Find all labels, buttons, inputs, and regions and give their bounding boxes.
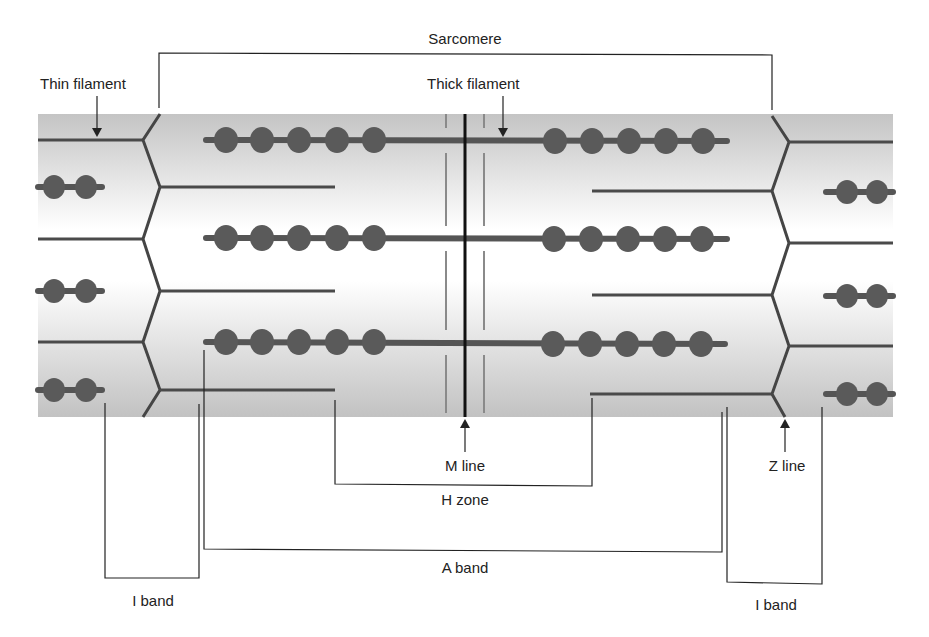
m-line-label: M line (445, 457, 485, 474)
h-zone-label: H zone (441, 491, 489, 508)
arrow-up-icon (780, 419, 790, 428)
a-band-label: A band (442, 559, 489, 576)
thick-filament-label: Thick filament (427, 75, 520, 92)
z-line-label: Z line (769, 457, 806, 474)
i-band-right-label: I band (755, 596, 797, 613)
sarcomere-label: Sarcomere (428, 30, 501, 47)
i-band-right-bracket (727, 407, 822, 584)
i-band-left-bracket (105, 403, 199, 578)
sarcomere-diagram: Sarcomere Thin filament Thick filament M… (0, 0, 929, 637)
arrow-up-icon (460, 419, 470, 428)
thin-filament-label: Thin filament (40, 75, 127, 92)
i-band-left-label: I band (132, 592, 174, 609)
